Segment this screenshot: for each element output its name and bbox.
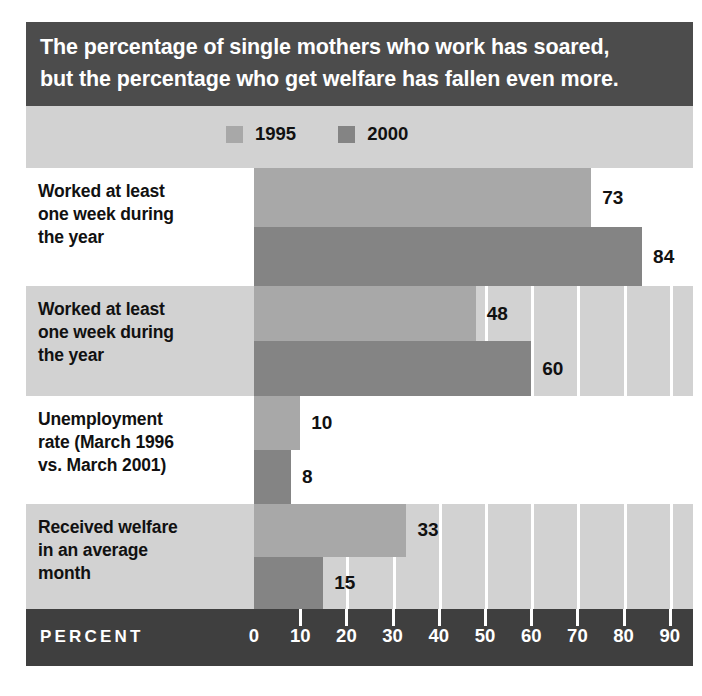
bar-track: 8 bbox=[228, 450, 693, 504]
bar-2000 bbox=[254, 227, 642, 286]
legend-item-2000: 2000 bbox=[338, 123, 408, 145]
row-category-label-line: month bbox=[38, 562, 228, 585]
row-category-label-line: vs. March 2001) bbox=[38, 454, 228, 477]
x-axis-tick bbox=[345, 609, 348, 626]
bar-value-label: 15 bbox=[334, 572, 355, 594]
chart-plot-rows: Worked at leastone week duringthe year73… bbox=[26, 168, 693, 609]
row-category-label: Received welfarein an averagemonth bbox=[38, 504, 228, 609]
x-axis-tick bbox=[484, 609, 487, 626]
chart-title-line-2: but the percentage who get welfare has f… bbox=[40, 63, 679, 95]
x-axis-tick-label: 20 bbox=[336, 625, 357, 647]
x-axis-tick-label: 10 bbox=[290, 625, 311, 647]
x-axis-tick-label: 0 bbox=[249, 625, 259, 647]
row-plot-area: 3315 bbox=[228, 504, 693, 609]
x-axis-tick-label: 70 bbox=[567, 625, 588, 647]
x-axis-tick bbox=[623, 609, 626, 626]
row-category-label-line: one week during bbox=[38, 203, 228, 226]
bar-track: 60 bbox=[228, 341, 693, 396]
chart-row: Received welfarein an averagemonth3315 bbox=[26, 504, 693, 609]
row-plot-area: 108 bbox=[228, 396, 693, 504]
chart-title-banner: The percentage of single mothers who wor… bbox=[26, 22, 693, 106]
bar-1995 bbox=[254, 504, 406, 557]
chart-figure: The percentage of single mothers who wor… bbox=[0, 0, 702, 696]
row-plot-area: 7384 bbox=[228, 168, 693, 286]
row-category-label: Unemploymentrate (March 1996vs. March 20… bbox=[38, 396, 228, 504]
row-category-label-line: Received welfare bbox=[38, 516, 228, 539]
bar-track: 33 bbox=[228, 504, 693, 557]
row-category-label-line: Worked at least bbox=[38, 298, 228, 321]
row-plot-area: 4860 bbox=[228, 286, 693, 396]
bar-1995 bbox=[254, 396, 300, 450]
chart-x-axis: PERCENT 0102030405060708090 bbox=[26, 609, 693, 666]
bar-1995 bbox=[254, 286, 476, 341]
bar-value-label: 10 bbox=[311, 412, 332, 434]
x-axis-tick bbox=[530, 609, 533, 626]
chart-row: Worked at leastone week duringthe year48… bbox=[26, 286, 693, 396]
x-axis-tick-label: 60 bbox=[521, 625, 542, 647]
row-category-label-line: Worked at least bbox=[38, 180, 228, 203]
x-axis-tick-label: 50 bbox=[475, 625, 496, 647]
legend-item-1995: 1995 bbox=[226, 123, 296, 145]
bar-track: 73 bbox=[228, 168, 693, 227]
chart-legend: 19952000 bbox=[26, 106, 693, 168]
bar-value-label: 8 bbox=[302, 466, 313, 488]
bar-value-label: 73 bbox=[602, 187, 623, 209]
bar-value-label: 60 bbox=[542, 358, 563, 380]
x-axis-tick bbox=[299, 609, 302, 626]
bar-1995 bbox=[254, 168, 591, 227]
row-category-label-line: the year bbox=[38, 344, 228, 367]
row-category-label: Worked at leastone week duringthe year bbox=[38, 168, 228, 286]
legend-swatch-icon bbox=[226, 126, 243, 143]
legend-label: 1995 bbox=[255, 123, 296, 145]
legend-items: 19952000 bbox=[226, 123, 408, 145]
bar-value-label: 84 bbox=[653, 246, 674, 268]
x-axis-tick-label: 30 bbox=[382, 625, 403, 647]
x-axis-tick bbox=[438, 609, 441, 626]
bar-track: 15 bbox=[228, 557, 693, 610]
row-category-label: Worked at leastone week duringthe year bbox=[38, 286, 228, 396]
bar-value-label: 48 bbox=[487, 303, 508, 325]
x-axis-tick bbox=[576, 609, 579, 626]
chart-row: Worked at leastone week duringthe year73… bbox=[26, 168, 693, 286]
bar-track: 10 bbox=[228, 396, 693, 450]
bar-2000 bbox=[254, 341, 531, 396]
x-axis-tick bbox=[392, 609, 395, 626]
row-category-label-line: in an average bbox=[38, 539, 228, 562]
row-category-label-line: rate (March 1996 bbox=[38, 431, 228, 454]
x-axis-tick-label: 90 bbox=[660, 625, 681, 647]
chart-row: Unemploymentrate (March 1996vs. March 20… bbox=[26, 396, 693, 504]
x-axis-tick-label: 80 bbox=[613, 625, 634, 647]
legend-label: 2000 bbox=[367, 123, 408, 145]
row-category-label-line: one week during bbox=[38, 321, 228, 344]
row-category-label-line: the year bbox=[38, 226, 228, 249]
bar-track: 48 bbox=[228, 286, 693, 341]
row-category-label-line: Unemployment bbox=[38, 408, 228, 431]
chart-title-line-1: The percentage of single mothers who wor… bbox=[40, 31, 679, 63]
x-axis-title: PERCENT bbox=[40, 627, 144, 647]
bar-track: 84 bbox=[228, 227, 693, 286]
x-axis-tick-label: 40 bbox=[429, 625, 450, 647]
legend-swatch-icon bbox=[338, 126, 355, 143]
x-axis-tick bbox=[669, 609, 672, 626]
bar-2000 bbox=[254, 557, 323, 610]
bar-2000 bbox=[254, 450, 291, 504]
bar-value-label: 33 bbox=[417, 519, 438, 541]
